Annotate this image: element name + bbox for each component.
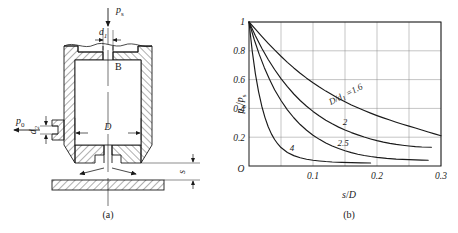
panel-a-caption: (a) [102, 209, 113, 221]
chart-x-tick-labels: 0.10.20.3 [307, 171, 447, 181]
chamber-label: B [115, 61, 122, 72]
x-tick-label-2: 0.3 [435, 171, 447, 181]
x-tick-label-0: 0.1 [307, 171, 319, 181]
figure-root: ps d1 B D p0 [0, 0, 458, 233]
panel-a-schematic: ps d1 B D p0 [0, 0, 229, 233]
D-label: D [104, 122, 112, 132]
y-tick-label-3: 0.8 [233, 46, 245, 56]
schematic-svg: ps d1 B D p0 [0, 0, 229, 233]
curve-label-1: 2 [343, 117, 348, 127]
y-tick-label-4: 1 [240, 17, 245, 27]
curve-label-3: 4 [290, 143, 295, 153]
chart-y-axis-title: p0/ps [234, 94, 248, 114]
y-tick-label-0: 0.2 [233, 133, 245, 143]
flow-arrow-right [112, 168, 136, 174]
chart-y-tick-labels: 0.20.40.60.81 [233, 17, 245, 142]
side-port-boss [52, 120, 64, 140]
chart-origin-label: O [238, 164, 245, 174]
output-pressure-label: p0 [15, 115, 25, 129]
curve-label-0: D/d1 =1.6 [326, 81, 365, 108]
s-gap-label: s [177, 170, 187, 174]
panel-b-caption: (b) [343, 209, 355, 221]
y-tick-label-2: 0.6 [233, 75, 245, 85]
d1-label: d1 [99, 27, 107, 40]
flapper-plate [52, 180, 164, 190]
curve-label-2: 2.5 [337, 138, 349, 148]
supply-pressure-label: ps [115, 4, 124, 18]
panel-b-chart: 0.10.20.3 0.20.40.60.81 D/d1 =1.622.54 O… [229, 0, 458, 233]
chart-svg: 0.10.20.3 0.20.40.60.81 D/d1 =1.622.54 O… [229, 0, 458, 233]
nose-left [75, 145, 104, 163]
curve-1 [249, 22, 431, 147]
x-tick-label-1: 0.2 [371, 171, 383, 181]
d2-label: d2 [28, 125, 41, 134]
nose-right [112, 145, 141, 163]
flow-arrow-left [80, 168, 104, 174]
chart-x-axis-title: s/D [342, 189, 357, 200]
